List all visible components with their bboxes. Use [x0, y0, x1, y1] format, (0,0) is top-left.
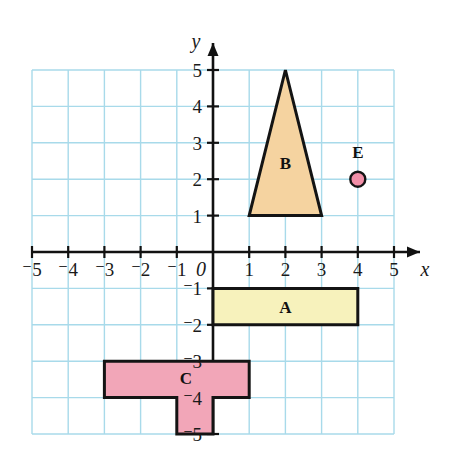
y-tick-label: ⁻5	[183, 424, 203, 445]
y-tick-label: 3	[193, 133, 203, 154]
coordinate-plane-figure: ABCE ⁻5⁻4⁻3⁻2⁻11234554321⁻1⁻2⁻3⁻4⁻50 xy	[0, 0, 453, 449]
y-tick-label: ⁻2	[183, 315, 203, 336]
y-tick-label: ⁻3	[183, 351, 203, 372]
coordinate-grid-svg: ABCE ⁻5⁻4⁻3⁻2⁻11234554321⁻1⁻2⁻3⁻4⁻50 xy	[0, 0, 453, 449]
x-tick-label: 4	[353, 259, 363, 280]
y-tick-label: ⁻1	[183, 278, 203, 299]
x-tick-label: 3	[317, 259, 327, 280]
x-tick-label: 5	[389, 259, 399, 280]
origin-label: 0	[196, 258, 206, 280]
y-tick-label: 2	[193, 169, 203, 190]
shape-a[interactable]: A	[213, 288, 358, 324]
point-marker-e[interactable]	[350, 172, 365, 187]
x-tick-label: ⁻2	[131, 259, 151, 280]
polygon-c[interactable]	[104, 361, 249, 434]
x-tick-label: ⁻4	[58, 259, 78, 280]
shape-label-a: A	[279, 298, 292, 317]
x-tick-label: ⁻5	[22, 259, 42, 280]
y-tick-label: 4	[193, 96, 203, 117]
x-tick-label: 2	[281, 259, 291, 280]
x-tick-label: ⁻1	[167, 259, 187, 280]
y-tick-label: ⁻4	[183, 388, 203, 409]
shape-c[interactable]: C	[104, 361, 249, 434]
shape-label-e: E	[352, 143, 363, 162]
y-tick-label: 5	[193, 60, 203, 81]
x-axis-arrowhead	[407, 247, 420, 258]
x-tick-label: ⁻3	[95, 259, 115, 280]
x-axis-name: x	[420, 258, 430, 280]
y-axis-name: y	[190, 30, 201, 53]
y-axis-arrowhead	[208, 43, 219, 56]
y-tick-label: 1	[193, 206, 203, 227]
x-tick-label: 1	[244, 259, 254, 280]
shape-label-b: B	[280, 154, 291, 173]
